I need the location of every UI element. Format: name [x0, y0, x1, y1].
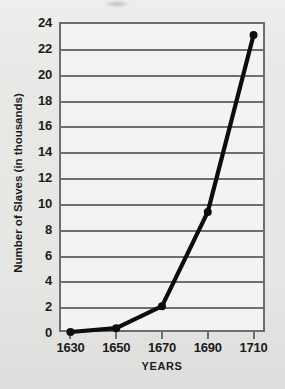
x-axis-tick-label: 1710 [239, 340, 267, 355]
x-axis-tick-mark [207, 332, 209, 339]
y-axis-title: Number of Slaves (in thousands) [12, 83, 24, 283]
gridline [61, 75, 263, 77]
gridline [61, 256, 263, 258]
x-axis-tick-mark [69, 332, 71, 339]
gridline [61, 204, 263, 206]
gridline [61, 178, 263, 180]
y-axis-tick-label: 2 [18, 299, 52, 314]
gridline [61, 49, 263, 51]
x-axis-tick-label: 1650 [102, 340, 130, 355]
x-axis-tick-mark [253, 332, 255, 339]
x-axis-tick-label: 1670 [148, 340, 176, 355]
y-axis-tick-label: 24 [18, 15, 52, 30]
y-axis-tick-label: 20 [18, 66, 52, 81]
gridline [61, 101, 263, 103]
gridline [61, 126, 263, 128]
gridline [61, 230, 263, 232]
gridline [61, 281, 263, 283]
y-axis-tick-label: 0 [18, 325, 52, 340]
gridline [61, 152, 263, 154]
x-axis-tick-label: 1690 [194, 340, 222, 355]
gridline [61, 307, 263, 309]
x-axis-tick-mark [115, 332, 117, 339]
x-axis-tick-mark [161, 332, 163, 339]
y-axis-tick-label: 22 [18, 40, 52, 55]
x-axis-tick-label: 1630 [56, 340, 84, 355]
plot-area [59, 22, 265, 332]
x-axis-title: YEARS [59, 360, 265, 372]
line-chart: 024681012141618202224 163016501670169017… [0, 0, 285, 389]
